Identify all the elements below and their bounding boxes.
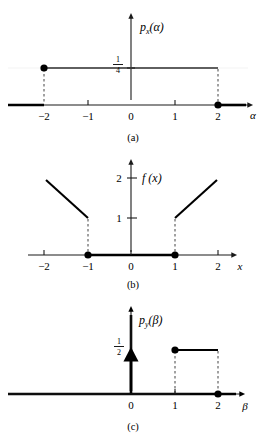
function-label-b: f (x) [142, 171, 162, 185]
y-label-b-2: 2 [116, 172, 122, 184]
x-axis-variable-a: α [250, 109, 256, 121]
panel-c: py(β) 1 2 0 1 2 β (c) [0, 293, 267, 437]
x-label-c-2: 2 [215, 399, 221, 411]
panel-b: f (x) 1 2 −2 −1 0 1 2 x (b) [0, 148, 267, 293]
x-label-b-0: −2 [38, 260, 50, 272]
x-label-b-3: 1 [172, 260, 178, 272]
x-label-b-1: −1 [82, 260, 94, 272]
y-value-label-a: 1 4 [113, 55, 123, 75]
panel-a: px(α) 1 4 −2 −1 0 1 2 α (a) [0, 0, 267, 148]
x-label-a-3: 1 [172, 110, 178, 122]
svg-text:1: 1 [116, 55, 120, 64]
svg-text:4: 4 [116, 66, 120, 75]
left-branch-b [46, 180, 88, 218]
y-value-label-c: 1 2 [114, 337, 124, 357]
endpoint-dot-right-b [171, 251, 178, 258]
x-label-a-1: −1 [82, 110, 94, 122]
x-label-b-4: 2 [215, 260, 221, 272]
right-branch-b [175, 180, 217, 218]
y-label-b-1: 1 [116, 212, 122, 224]
function-label-a: px(α) [139, 20, 164, 36]
x-label-c-0: 0 [128, 399, 134, 411]
x-label-b-2: 0 [128, 260, 134, 272]
function-label-c: py(β) [138, 313, 163, 329]
svg-text:2: 2 [117, 348, 121, 357]
caption-c: (c) [127, 421, 139, 433]
endpoint-dot-left-a [40, 64, 47, 71]
x-axis-variable-c: β [241, 400, 248, 412]
svg-text:1: 1 [117, 337, 121, 346]
caption-a: (a) [127, 132, 139, 144]
endpoint-dot-left-b [84, 251, 91, 258]
endpoint-dot-left-c [171, 346, 178, 353]
x-label-a-2: 0 [128, 110, 134, 122]
x-label-c-1: 1 [172, 399, 178, 411]
endpoint-dot-right-a [214, 101, 221, 108]
figure-container: px(α) 1 4 −2 −1 0 1 2 α (a) [0, 0, 267, 437]
caption-b: (b) [127, 279, 140, 291]
x-label-a-0: −2 [38, 110, 50, 122]
x-axis-variable-b: x [237, 260, 243, 272]
x-label-a-4: 2 [215, 110, 221, 122]
endpoint-dot-right-c [214, 390, 221, 397]
